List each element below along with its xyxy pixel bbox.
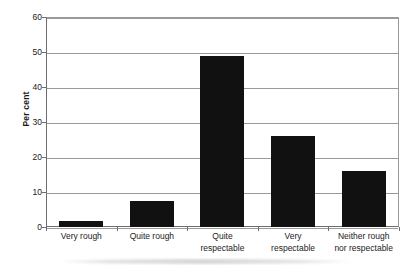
bar-slot (187, 17, 258, 227)
y-tick-label-30: 30 (2, 118, 42, 127)
bar-slot (328, 17, 399, 227)
y-tick-mark-60 (42, 17, 46, 18)
x-tick-label: Very rough (46, 231, 117, 243)
bar-chart-figure: Per cent 0102030405060 Very roughQuite r… (0, 0, 411, 265)
y-tick-label-40: 40 (2, 83, 42, 92)
y-tick-mark-30 (42, 122, 46, 123)
bar-slot (258, 17, 329, 227)
x-tick-label: Quiterespectable (187, 231, 258, 254)
y-tick-mark-50 (42, 52, 46, 53)
bar-slot (46, 17, 117, 227)
y-tick-label-60: 60 (2, 13, 42, 22)
y-axis-tick-labels: 0102030405060 (0, 17, 42, 227)
bar (130, 201, 174, 227)
y-tick-label-10: 10 (2, 188, 42, 197)
y-tick-mark-20 (42, 157, 46, 158)
x-tick-label: Neither roughnor respectable (328, 231, 399, 254)
x-tick-mark (399, 227, 400, 231)
bar (271, 136, 315, 227)
y-tick-mark-0 (42, 227, 46, 228)
bars-layer (46, 17, 399, 227)
scan-artifact-smudge (55, 259, 355, 264)
y-tick-label-0: 0 (2, 223, 42, 232)
x-tick-label: Veryrespectable (258, 231, 329, 254)
x-tick-label: Quite rough (117, 231, 188, 243)
y-tick-mark-40 (42, 87, 46, 88)
y-tick-label-20: 20 (2, 153, 42, 162)
bar (342, 171, 386, 227)
bar-slot (117, 17, 188, 227)
bar (200, 56, 244, 228)
y-tick-label-50: 50 (2, 48, 42, 57)
y-tick-mark-10 (42, 192, 46, 193)
